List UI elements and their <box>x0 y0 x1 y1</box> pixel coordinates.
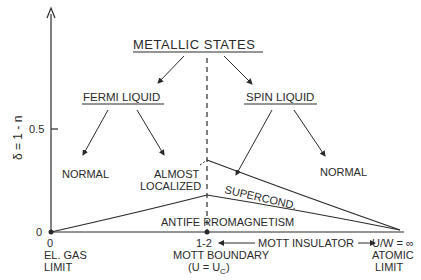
atomic-label: ATOMIC <box>372 249 414 261</box>
spin-liquid-label: SPIN LIQUID <box>246 91 314 103</box>
arrow-spin-normal <box>294 110 325 156</box>
arrow-to-spin <box>224 56 252 84</box>
arrow-fermi-almost <box>137 110 164 155</box>
right-normal-label: NORMAL <box>320 166 367 178</box>
arrow-to-fermi <box>158 56 184 83</box>
el-gas-label: EL. GAS <box>44 249 87 261</box>
arrow-spin-supercond <box>236 110 272 175</box>
x-end-label: U/W = ∞ <box>372 237 414 249</box>
afm-label: ANTIFE RROMAGNETISM <box>161 216 294 228</box>
mott-insulator-label: MOTT INSULATOR <box>258 237 354 249</box>
metallic-states-title: METALLIC STATES <box>133 37 255 52</box>
localized-label: LOCALIZED <box>140 180 201 192</box>
y-axis-label: δ = 1 - n <box>11 116 25 160</box>
almost-label: ALMOST <box>154 168 200 180</box>
y-tick-label: 0.5 <box>29 123 44 135</box>
y-zero-label: 0 <box>36 226 42 238</box>
fermi-liquid-label: FERMI LIQUID <box>83 91 160 103</box>
el-gas-limit-label: LIMIT <box>44 261 72 273</box>
x-mid-label: 1-2 <box>196 237 212 249</box>
supercond-label: SUPERCOND. <box>224 183 298 211</box>
almost-localized-tip <box>200 160 207 165</box>
phase-diagram: 0.5 δ = 1 - n 0 METALLIC STATES FERMI LI… <box>0 0 421 280</box>
atomic-limit-label: LIMIT <box>375 261 403 273</box>
arrow-fermi-normal <box>83 110 108 155</box>
mott-uc-label: (U = UC) <box>188 261 230 276</box>
mott-boundary-label: MOTT BOUNDARY <box>173 249 270 261</box>
x-zero-label: 0 <box>47 237 53 249</box>
left-normal-label: NORMAL <box>62 168 109 180</box>
